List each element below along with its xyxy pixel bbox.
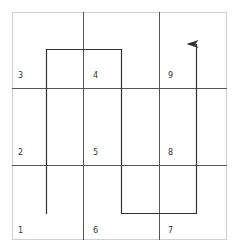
cell-label-8: 8	[168, 148, 173, 157]
serpentine-path	[47, 44, 197, 214]
cell-label-6: 6	[93, 226, 98, 235]
cell-label-3: 3	[18, 71, 23, 80]
cell-label-5: 5	[93, 148, 98, 157]
cell-label-7: 7	[168, 226, 173, 235]
cell-label-9: 9	[168, 71, 173, 80]
cell-label-2: 2	[18, 148, 23, 157]
cell-label-1: 1	[18, 226, 23, 235]
outer-border	[13, 13, 227, 240]
grid-path-diagram: 3 4 9 2 5 8 1 6 7	[0, 0, 239, 251]
cell-label-4: 4	[93, 71, 98, 80]
